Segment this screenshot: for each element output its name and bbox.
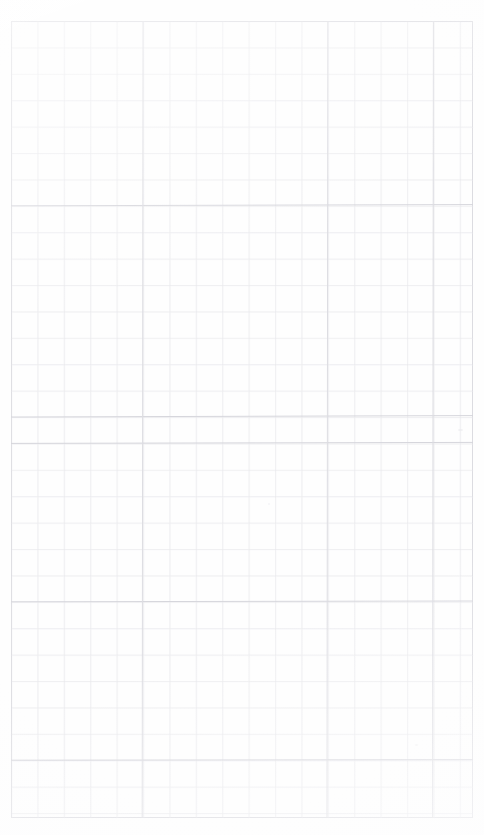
page-root [0, 0, 484, 835]
graph-paper-grid [11, 21, 473, 818]
grid-lines-emphasis [11, 21, 473, 818]
